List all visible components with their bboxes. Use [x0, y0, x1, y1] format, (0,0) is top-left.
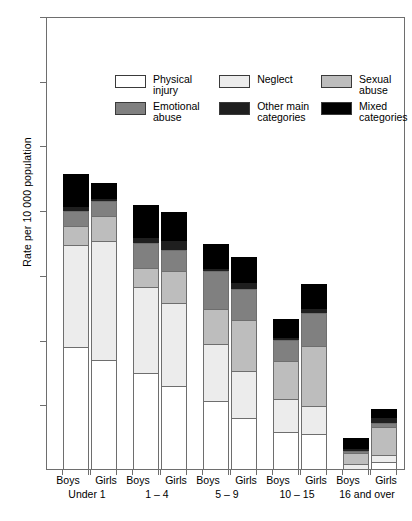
- x-tickmark-2-0: [202, 470, 203, 475]
- x-tickmark-2-3: [256, 470, 257, 475]
- segment-neglect: [91, 241, 117, 361]
- segment-emotional: [161, 250, 187, 273]
- segment-sexual: [91, 216, 117, 242]
- segment-emotional: [91, 201, 117, 217]
- segment-sexual: [273, 361, 299, 400]
- segment-sexual: [161, 271, 187, 303]
- x-tickmark-4-1: [368, 470, 369, 475]
- segment-emotional: [231, 289, 257, 321]
- x-tickmark-1-3: [186, 470, 187, 475]
- x-tickmark-0-3: [116, 470, 117, 475]
- x-tickmark-0-1: [88, 470, 89, 475]
- segment-sexual: [301, 346, 327, 407]
- legend-label-mixed: Mixed categories: [359, 101, 412, 123]
- legend-label-neglect: Neglect: [257, 74, 293, 85]
- bar-girls-5-–-9: [231, 257, 257, 469]
- x-tickmark-3-1: [298, 470, 299, 475]
- legend-swatch-emotional-icon: [115, 102, 146, 115]
- legend-swatch-neglect-icon: [219, 75, 250, 88]
- chart-legend: Physical injuryNeglectSexual abuseEmotio…: [115, 74, 412, 123]
- segment-physical: [231, 418, 257, 470]
- legend-label-sexual: Sexual abuse: [359, 74, 412, 96]
- bar-boys-16-and-over: [343, 438, 369, 469]
- x-group-0: BoysGirlsUnder 1: [50, 474, 124, 500]
- bar-boys-1-–-4: [133, 205, 159, 469]
- x-label-boys-0: Boys: [53, 474, 83, 486]
- legend-swatch-physical-icon: [115, 75, 146, 88]
- y-axis-title: Rate per 10 000 population: [21, 112, 33, 292]
- bar-boys-under-1: [63, 174, 89, 469]
- bar-boys-10-–-15: [273, 319, 299, 469]
- x-label-boys-3: Boys: [263, 474, 293, 486]
- x-tickmark-0-2: [90, 470, 91, 475]
- segment-mixed: [343, 438, 369, 449]
- x-group-range-1: 1 – 4: [120, 488, 194, 500]
- stacked-bar-chart: 70605040302010 Rate per 10 000 populatio…: [0, 0, 412, 521]
- segment-mixed: [371, 409, 397, 419]
- x-tickmark-3-3: [326, 470, 327, 475]
- legend-item-sexual: Sexual abuse: [321, 74, 412, 96]
- segment-neglect: [63, 245, 89, 349]
- segment-sexual: [371, 427, 397, 456]
- segment-neglect: [343, 464, 369, 470]
- bar-girls-10-–-15: [301, 284, 327, 469]
- segment-sexual: [231, 320, 257, 372]
- segment-emotional: [203, 271, 229, 310]
- legend-label-physical: Physical injury: [153, 74, 207, 96]
- bar-boys-5-–-9: [203, 244, 229, 469]
- x-tickmark-1-0: [132, 470, 133, 475]
- legend-swatch-other-icon: [219, 102, 250, 115]
- x-tickmark-0-0: [62, 470, 63, 475]
- segment-physical: [91, 360, 117, 470]
- segment-neglect: [273, 399, 299, 433]
- segment-emotional: [63, 211, 89, 227]
- x-tickmark-3-2: [300, 470, 301, 475]
- legend-label-emotional: Emotional abuse: [153, 101, 207, 123]
- segment-mixed: [273, 319, 299, 338]
- segment-mixed: [203, 244, 229, 269]
- bar-girls-1-–-4: [161, 212, 187, 469]
- x-label-girls-4: Girls: [371, 474, 401, 486]
- plot-area: Physical injuryNeglectSexual abuseEmotio…: [46, 17, 405, 470]
- x-tickmark-1-2: [160, 470, 161, 475]
- x-label-boys-2: Boys: [193, 474, 223, 486]
- legend-item-other: Other main categories: [219, 101, 309, 123]
- bar-girls-16-and-over: [371, 409, 397, 469]
- legend-item-mixed: Mixed categories: [321, 101, 412, 123]
- x-group-range-4: 16 and over: [330, 488, 404, 500]
- segment-neglect: [161, 303, 187, 387]
- bar-girls-under-1: [91, 183, 117, 469]
- segment-neglect: [133, 287, 159, 374]
- x-label-girls-0: Girls: [91, 474, 121, 486]
- x-label-boys-4: Boys: [333, 474, 363, 486]
- segment-mixed: [231, 257, 257, 283]
- legend-item-physical: Physical injury: [115, 74, 207, 96]
- x-label-boys-1: Boys: [123, 474, 153, 486]
- x-label-girls-3: Girls: [301, 474, 331, 486]
- legend-swatch-mixed-icon: [321, 102, 352, 115]
- x-tickmark-4-0: [342, 470, 343, 475]
- x-tickmark-1-1: [158, 470, 159, 475]
- segment-physical: [63, 347, 89, 470]
- segment-mixed: [63, 174, 89, 206]
- x-group-1: BoysGirls1 – 4: [120, 474, 194, 500]
- segment-emotional: [301, 313, 327, 347]
- x-tickmark-3-0: [272, 470, 273, 475]
- x-tickmark-4-3: [396, 470, 397, 475]
- x-group-3: BoysGirls10 – 15: [260, 474, 334, 500]
- segment-mixed: [161, 212, 187, 241]
- segment-physical: [301, 434, 327, 470]
- segment-physical: [133, 373, 159, 470]
- x-group-range-2: 5 – 9: [190, 488, 264, 500]
- segment-neglect: [301, 406, 327, 435]
- x-group-range-0: Under 1: [50, 488, 124, 500]
- segment-physical: [203, 401, 229, 470]
- x-label-girls-1: Girls: [161, 474, 191, 486]
- segment-mixed: [301, 284, 327, 309]
- segment-sexual: [133, 268, 159, 287]
- legend-item-neglect: Neglect: [219, 74, 309, 88]
- x-group-4: BoysGirls16 and over: [330, 474, 404, 500]
- x-tickmark-4-2: [370, 470, 371, 475]
- legend-label-other: Other main categories: [257, 101, 309, 123]
- segment-mixed: [133, 205, 159, 237]
